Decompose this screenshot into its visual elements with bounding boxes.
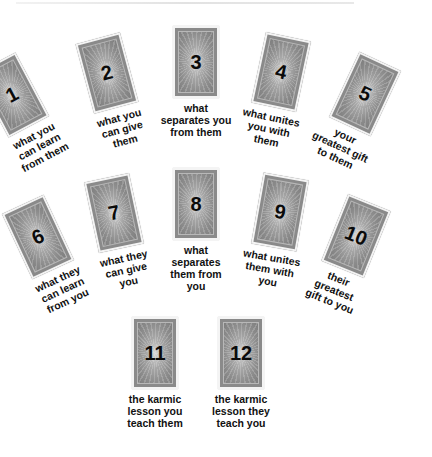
- card-number: 11: [134, 342, 176, 365]
- top-divider: [16, 2, 354, 4]
- tarot-card: 6: [2, 195, 74, 280]
- tarot-card: 5: [329, 52, 401, 137]
- caption-line: the karmic: [191, 393, 291, 405]
- tarot-card: 11: [132, 317, 178, 389]
- tarot-card: 4: [251, 32, 311, 112]
- caption-line: teach them: [105, 417, 205, 429]
- card-number: 8: [175, 193, 217, 216]
- tarot-card: 8: [173, 168, 219, 240]
- card-number: 12: [220, 342, 262, 365]
- tarot-card: 10: [321, 194, 391, 278]
- tarot-card: 7: [84, 173, 144, 253]
- card-caption: the karmiclesson theyteach you: [191, 393, 291, 429]
- tarot-card: 9: [251, 173, 309, 252]
- tarot-card: 2: [75, 32, 138, 113]
- tarot-card: 3: [173, 26, 219, 98]
- card-number: 3: [175, 51, 217, 74]
- card-caption: the karmiclesson youteach them: [105, 393, 205, 429]
- caption-line: you: [146, 280, 246, 292]
- caption-line: teach you: [191, 417, 291, 429]
- tarot-card: 12: [218, 317, 264, 389]
- caption-line: lesson you: [105, 405, 205, 417]
- caption-line: lesson they: [191, 405, 291, 417]
- caption-line: the karmic: [105, 393, 205, 405]
